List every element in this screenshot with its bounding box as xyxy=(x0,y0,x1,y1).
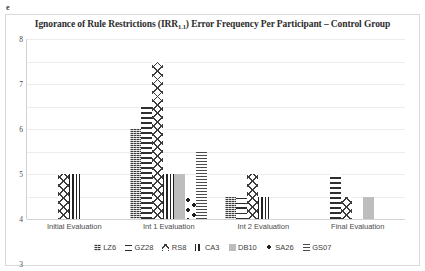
bar-rs8 xyxy=(341,197,352,220)
bar-group xyxy=(216,39,311,219)
legend-item-gs07[interactable]: GS07 xyxy=(303,243,332,252)
plot-area: 876543210 xyxy=(27,39,405,219)
x-axis-label: Final Evaluation xyxy=(311,222,406,231)
bar-rs8 xyxy=(58,174,69,219)
legend-item-sa26[interactable]: SA26 xyxy=(266,243,294,252)
bar-rs8 xyxy=(247,174,258,219)
legend-label: GZ28 xyxy=(135,243,154,252)
legend-item-gz28[interactable]: GZ28 xyxy=(125,243,153,252)
y-tick-label-3: 3 xyxy=(19,260,23,269)
bar-gz28 xyxy=(141,107,152,220)
bar-rs8 xyxy=(152,62,163,220)
bar-gz28 xyxy=(236,197,247,220)
y-tick-label-6: 6 xyxy=(19,125,23,134)
chart-title-suffix: ) Error Frequency Per Participant – Cont… xyxy=(186,19,390,29)
bar-group xyxy=(27,39,122,219)
bar-sa26 xyxy=(185,197,196,220)
legend-swatch-icon xyxy=(125,244,132,251)
legend-swatch-icon xyxy=(162,244,169,251)
bar-group xyxy=(311,39,406,219)
legend-item-ca3[interactable]: CA3 xyxy=(195,243,219,252)
bar-group xyxy=(122,39,217,219)
x-axis-label: Initial Evaluation xyxy=(27,222,122,231)
bar-ca3 xyxy=(258,197,269,220)
y-tick-label-4: 4 xyxy=(19,215,23,224)
bar-ca3 xyxy=(163,174,174,219)
bar-set xyxy=(130,39,207,219)
corner-mark: e xyxy=(6,3,10,12)
legend-swatch-icon xyxy=(229,244,236,251)
bar-ca3 xyxy=(69,174,80,219)
legend-label: RS8 xyxy=(172,243,187,252)
chart-title-subscript: 1.1 xyxy=(178,23,186,30)
x-axis-label: Int 1 Evaluation xyxy=(122,222,217,231)
legend-label: CA3 xyxy=(205,243,220,252)
bar-db10 xyxy=(363,197,374,220)
legend-label: LZ6 xyxy=(103,243,116,252)
legend-swatch-icon xyxy=(303,244,310,251)
bar-lz6 xyxy=(130,129,141,219)
bar-db10 xyxy=(174,174,185,219)
gridline-0: 0 xyxy=(27,219,405,220)
x-axis-label: Int 2 Evaluation xyxy=(216,222,311,231)
legend-label: DB10 xyxy=(238,243,257,252)
legend-label: SA26 xyxy=(275,243,293,252)
legend-item-db10[interactable]: DB10 xyxy=(229,243,257,252)
chart-legend: LZ6GZ28RS8CA3DB10SA26GS07 xyxy=(6,243,419,252)
chart-title-main: Ignorance of Rule Restrictions (IRR xyxy=(35,19,178,29)
chart-title: Ignorance of Rule Restrictions (IRR1.1) … xyxy=(6,19,419,29)
bar-set xyxy=(319,39,396,219)
bar-gz28 xyxy=(330,174,341,219)
legend-swatch-icon xyxy=(266,244,273,251)
y-tick-label-5: 5 xyxy=(19,170,23,179)
legend-item-rs8[interactable]: RS8 xyxy=(162,243,186,252)
bar-lz6 xyxy=(225,197,236,220)
bar-set xyxy=(36,39,113,219)
x-axis-labels: Initial EvaluationInt 1 EvaluationInt 2 … xyxy=(27,222,405,231)
legend-item-lz6[interactable]: LZ6 xyxy=(94,243,116,252)
legend-swatch-icon xyxy=(94,244,101,251)
legend-label: GS07 xyxy=(312,243,331,252)
y-tick-label-7: 7 xyxy=(19,80,23,89)
y-tick-label-8: 8 xyxy=(19,35,23,44)
legend-swatch-icon xyxy=(195,244,202,251)
bar-set xyxy=(225,39,302,219)
chart-frame: Ignorance of Rule Restrictions (IRR1.1) … xyxy=(5,14,420,266)
bar-groups xyxy=(27,39,405,219)
chart-page: e Ignorance of Rule Restrictions (IRR1.1… xyxy=(0,0,425,271)
bar-gs07 xyxy=(196,152,207,220)
